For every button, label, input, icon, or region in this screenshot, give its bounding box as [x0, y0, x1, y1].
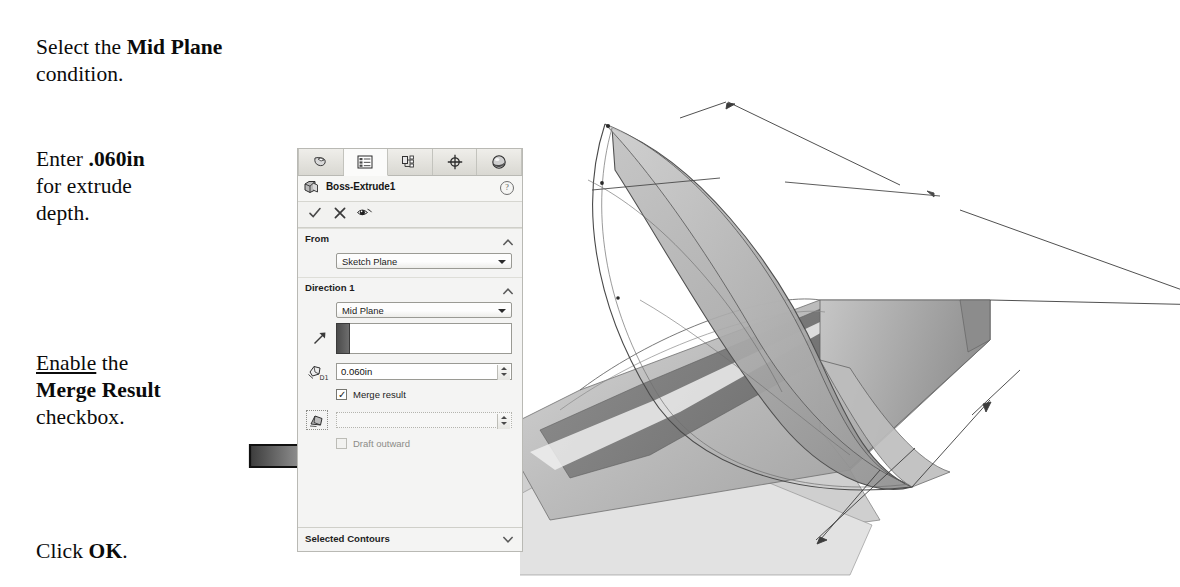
- draft-outward-label: Draft outward: [336, 438, 410, 449]
- cad-model-graphic: [520, 0, 1180, 587]
- page-root: Select the Mid Plane condition. Enter .0…: [0, 0, 1180, 587]
- instruction-emphasis-merge-result: Merge Result: [36, 378, 161, 402]
- instruction-text-tail: condition.: [36, 62, 124, 86]
- chevron-down-icon: [498, 260, 506, 264]
- instruction-emphasis-depth-value: .060in: [89, 147, 145, 171]
- direction-color-swatch[interactable]: [336, 323, 350, 354]
- checkmark-icon: ✓: [338, 389, 346, 400]
- ok-button[interactable]: [308, 206, 322, 222]
- instruction-emphasis-mid-plane: Mid Plane: [127, 35, 223, 59]
- instruction-emphasis-ok: OK: [89, 539, 123, 563]
- instruction-text-lead: Enter: [36, 147, 89, 171]
- instruction-text-lead: Click: [36, 539, 89, 563]
- draft-outward-row: Draft outward: [298, 436, 522, 454]
- instruction-enter-depth: Enter .060in for extrude depth.: [36, 146, 176, 227]
- section-label-from: From: [305, 233, 329, 244]
- tab-feature-manager-design-tree[interactable]: [298, 149, 344, 175]
- draft-angle-row: [298, 410, 522, 432]
- depth-stepper[interactable]: [497, 365, 510, 380]
- instruction-text-the: the: [96, 351, 128, 375]
- depth-d1-icon: D1: [307, 363, 331, 384]
- chevron-down-icon: [502, 535, 514, 546]
- eye-icon: [356, 206, 373, 219]
- help-icon[interactable]: ?: [500, 181, 514, 195]
- boss-extrude-icon: [304, 180, 319, 197]
- merge-result-checkbox[interactable]: ✓: [336, 389, 347, 400]
- feature-tree-icon: [312, 155, 329, 170]
- end-condition-select[interactable]: Mid Plane: [336, 302, 512, 318]
- instruction-column: Select the Mid Plane condition. Enter .0…: [36, 0, 286, 587]
- depth-row: D1 0.060in: [298, 363, 522, 383]
- draft-angle-stepper: [497, 414, 510, 429]
- detailed-preview-button[interactable]: [356, 206, 373, 221]
- check-icon: [308, 206, 322, 220]
- instruction-click-ok: Click OK.: [36, 538, 206, 565]
- section-body-from: Sketch Plane: [298, 249, 522, 277]
- instruction-text-line2: for extrude: [36, 174, 132, 198]
- instruction-underline-enable: Enable: [36, 351, 96, 375]
- cad-viewport: R1.188 2.250 .625: [520, 0, 1180, 587]
- section-header-direction1[interactable]: Direction 1: [298, 277, 522, 298]
- start-condition-select[interactable]: Sketch Plane: [336, 253, 512, 269]
- reverse-arrow-icon[interactable]: [312, 330, 328, 348]
- section-label-selected-contours: Selected Contours: [305, 533, 390, 544]
- draft-icon[interactable]: [306, 410, 328, 430]
- feature-header: Boss-Extrude1 ?: [298, 176, 522, 202]
- property-manager-panel: Boss-Extrude1 ?: [297, 148, 523, 552]
- feature-action-row: [298, 202, 522, 228]
- section-header-selected-contours[interactable]: Selected Contours: [298, 527, 522, 551]
- depth-value: 0.060in: [341, 366, 372, 377]
- close-icon: [333, 206, 347, 220]
- instruction-select-mid-plane: Select the Mid Plane condition.: [36, 34, 296, 88]
- chevron-up-icon: [502, 234, 514, 254]
- tab-dimxpert-manager[interactable]: [433, 149, 478, 175]
- chevron-down-icon: [498, 309, 506, 313]
- direction-reference-box[interactable]: [336, 323, 512, 354]
- merge-result-row[interactable]: ✓ Merge result: [298, 387, 522, 405]
- instruction-text-lead: Select the: [36, 35, 127, 59]
- chevron-up-icon: [502, 283, 514, 303]
- tab-property-manager[interactable]: [344, 149, 389, 176]
- instruction-text-line3: depth.: [36, 201, 90, 225]
- property-manager-tabstrip: [298, 149, 522, 176]
- tab-display-manager[interactable]: [477, 149, 522, 175]
- depth-input[interactable]: 0.060in: [336, 363, 512, 380]
- start-condition-value: Sketch Plane: [342, 256, 397, 267]
- section-label-direction1: Direction 1: [305, 282, 355, 293]
- instruction-text-period: .: [122, 539, 127, 563]
- dimxpert-target-icon: [447, 154, 463, 170]
- property-list-icon: [357, 155, 373, 169]
- section-body-direction1: Mid Plane: [298, 298, 522, 460]
- direction-selection-row: [298, 322, 522, 356]
- instruction-text-checkbox: checkbox.: [36, 405, 125, 429]
- configuration-icon: [401, 155, 418, 170]
- tab-configuration-manager[interactable]: [388, 149, 433, 175]
- cancel-button[interactable]: [333, 206, 347, 222]
- draft-outward-checkbox: [336, 438, 347, 449]
- feature-title: Boss-Extrude1: [326, 181, 395, 192]
- appearances-sphere-icon: [491, 154, 507, 170]
- section-header-from[interactable]: From: [298, 228, 522, 249]
- end-condition-value: Mid Plane: [342, 305, 384, 316]
- instruction-enable-merge: Enable the Merge Result checkbox.: [36, 350, 186, 431]
- draft-angle-input: [336, 412, 512, 428]
- svg-text:D1: D1: [320, 374, 329, 382]
